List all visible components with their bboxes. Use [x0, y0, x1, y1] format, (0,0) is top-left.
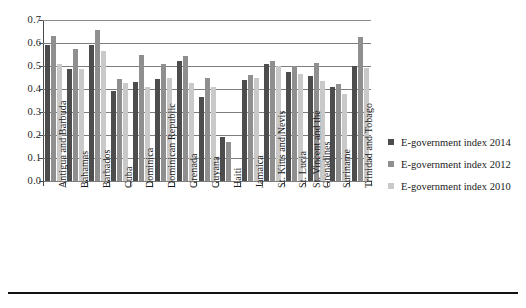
- chart-figure: 0.00.10.20.30.40.50.60.7 Antigua and Bar…: [0, 0, 526, 308]
- y-axis-tick-label: 0.1: [3, 153, 41, 163]
- bar: [336, 84, 341, 181]
- bar: [45, 45, 50, 181]
- x-axis-tick-mark: [174, 181, 175, 186]
- x-axis-tick-mark: [305, 181, 306, 186]
- x-axis-category-label: Grenada: [189, 153, 199, 188]
- x-axis-category-label: St. Vincent and theGrenadines: [312, 98, 332, 188]
- x-axis-category-label: Cuba: [124, 166, 134, 188]
- legend-item: E-government index 2010: [388, 175, 522, 197]
- bar: [226, 142, 231, 181]
- x-axis-tick-mark: [43, 181, 44, 186]
- legend-item: E-government index 2014: [388, 131, 522, 153]
- y-axis-tick-label: 0.4: [3, 84, 41, 94]
- x-axis-tick-mark: [152, 181, 153, 186]
- bar: [220, 137, 225, 181]
- legend-label: E-government index 2012: [401, 159, 511, 170]
- x-axis-category-label: Dominica: [145, 148, 155, 188]
- x-axis-tick-mark: [262, 181, 263, 186]
- legend-color-swatch: [388, 161, 394, 167]
- x-axis-category-label: St. Kitts and Nevis: [277, 111, 287, 188]
- x-axis-category-label: Suriname: [342, 149, 352, 188]
- legend-label: E-government index 2010: [401, 181, 511, 192]
- bar: [242, 80, 247, 181]
- bar: [352, 66, 357, 181]
- x-axis-tick-mark: [109, 181, 110, 186]
- bar: [177, 61, 182, 181]
- x-axis-category-label: Bahamas: [80, 151, 90, 188]
- x-axis-tick-mark: [65, 181, 66, 186]
- chart-legend: E-government index 2014E-government inde…: [388, 131, 522, 197]
- x-axis-category-label: Jamaica: [255, 155, 265, 188]
- legend-item: E-government index 2012: [388, 153, 522, 175]
- bar: [73, 49, 78, 181]
- x-axis-tick-mark: [284, 181, 285, 186]
- x-axis-tick-mark: [349, 181, 350, 186]
- bar: [183, 56, 188, 181]
- y-axis-tick-label: 0.0: [3, 176, 41, 186]
- legend-label: E-government index 2014: [401, 137, 511, 148]
- bar: [51, 36, 56, 181]
- x-axis-category-label: Dominican Republic: [167, 103, 177, 188]
- x-axis-category-label: Guyana: [211, 156, 221, 188]
- x-axis-category-label: Antigua and Barbuda: [58, 101, 68, 188]
- bar: [117, 79, 122, 181]
- bar: [358, 37, 363, 181]
- x-axis-tick-mark: [371, 181, 372, 186]
- legend-color-swatch: [388, 183, 394, 189]
- y-axis-tick-label: 0.3: [3, 107, 41, 117]
- bar-group: [111, 20, 128, 181]
- x-axis-tick-mark: [87, 181, 88, 186]
- x-axis-tick-mark: [130, 181, 131, 186]
- bar: [155, 79, 160, 181]
- x-axis-tick-mark: [196, 181, 197, 186]
- legend-color-swatch: [388, 139, 394, 145]
- bar: [67, 69, 72, 181]
- x-axis-category-label: Barbados: [102, 149, 112, 188]
- x-axis-category-label: Trinidad and Tobago: [364, 103, 374, 188]
- bar-group: [220, 20, 237, 181]
- bar: [199, 97, 204, 181]
- x-axis-tick-mark: [327, 181, 328, 186]
- bar: [95, 30, 100, 181]
- y-axis-tick-label: 0.6: [3, 38, 41, 48]
- bottom-divider-rule: [8, 292, 518, 294]
- y-axis-tick-label: 0.2: [3, 130, 41, 140]
- bar: [248, 75, 253, 181]
- x-axis-category-label: St. Lucia: [298, 151, 308, 188]
- x-axis-category-label: Haiti: [233, 168, 243, 189]
- y-axis-tick-labels: 0.00.10.20.30.40.50.60.7: [0, 20, 41, 181]
- y-axis-tick-label: 0.5: [3, 61, 41, 71]
- bar: [205, 78, 210, 182]
- y-axis-tick-label: 0.7: [3, 15, 41, 25]
- bar: [270, 61, 275, 181]
- x-axis-tick-mark: [218, 181, 219, 186]
- x-axis-tick-mark: [240, 181, 241, 186]
